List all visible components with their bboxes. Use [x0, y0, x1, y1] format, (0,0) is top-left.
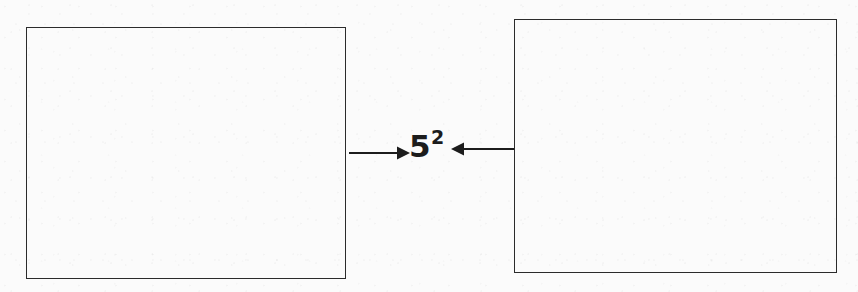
- left-panel: [26, 27, 346, 279]
- exponent-base: 5: [409, 128, 431, 164]
- right-arrow-icon: [446, 136, 516, 162]
- right-panel: [514, 19, 837, 273]
- left-arrow-icon: [348, 140, 412, 166]
- figure-canvas: 52: [0, 0, 858, 292]
- exponent-label: 52: [409, 131, 444, 162]
- exponent-superscript: 2: [431, 126, 444, 148]
- right-arrow-head: [451, 143, 464, 156]
